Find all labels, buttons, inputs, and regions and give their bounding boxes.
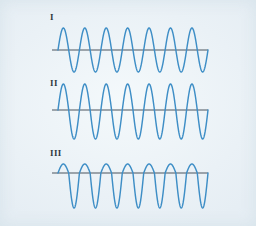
sine-curve-ii: [58, 84, 208, 139]
waveform-trace-iii: [52, 164, 208, 208]
sine-curve-iii: [58, 164, 208, 208]
waveform-svg: [0, 0, 256, 226]
waveform-plot-area: I II III: [0, 0, 256, 226]
waveform-trace-ii: [52, 84, 208, 139]
waveform-trace-i: [52, 28, 208, 72]
figure-canvas: I II III: [0, 0, 256, 226]
